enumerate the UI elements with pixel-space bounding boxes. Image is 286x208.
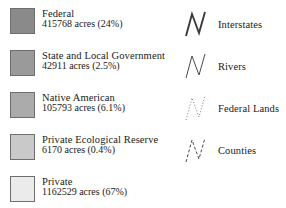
private-ecological-reserve-swatch-icon <box>10 134 35 160</box>
map-legend: Federal 415768 acres (24%) State and Loc… <box>0 0 286 208</box>
legend-item-rivers[interactable]: Rivers <box>183 51 246 81</box>
federal-swatch-icon <box>10 8 35 34</box>
legend-item-label: Interstates <box>218 19 262 30</box>
legend-item-private-ecological-reserve[interactable]: Private Ecological Reserve 6170 acres (0… <box>10 134 158 160</box>
legend-item-stat: 6170 acres (0.4%) <box>42 145 158 156</box>
legend-item-stat: 105793 acres (6.1%) <box>42 103 125 114</box>
legend-item-text: Private Ecological Reserve 6170 acres (0… <box>42 134 158 156</box>
federal-lands-zigzag-dotted-line-icon <box>183 93 213 123</box>
legend-item-counties[interactable]: Counties <box>183 135 256 165</box>
legend-item-label: Federal Lands <box>218 103 279 114</box>
legend-item-label: Rivers <box>218 61 246 72</box>
state-and-local-government-swatch-icon <box>10 50 35 76</box>
legend-item-federal-lands[interactable]: Federal Lands <box>183 93 279 123</box>
legend-item-interstates[interactable]: Interstates <box>183 9 262 39</box>
legend-item-text: Federal 415768 acres (24%) <box>42 8 123 30</box>
rivers-zigzag-line-icon <box>183 51 213 81</box>
legend-item-private[interactable]: Private 1162529 acres (67%) <box>10 176 127 202</box>
legend-item-stat: 1162529 acres (67%) <box>42 187 127 198</box>
counties-zigzag-dashed-line-icon <box>183 135 213 165</box>
legend-item-state-and-local-government[interactable]: State and Local Government 42911 acres (… <box>10 50 165 76</box>
interstates-zigzag-line-icon <box>183 9 213 39</box>
line-legend-column: Interstates Rivers Federal Lands Countie… <box>150 0 286 208</box>
legend-item-text: State and Local Government 42911 acres (… <box>42 50 165 72</box>
polygon-legend-column: Federal 415768 acres (24%) State and Loc… <box>0 0 150 208</box>
legend-item-label: Counties <box>218 145 256 156</box>
legend-item-native-american[interactable]: Native American 105793 acres (6.1%) <box>10 92 125 118</box>
legend-item-text: Private 1162529 acres (67%) <box>42 176 127 198</box>
native-american-swatch-icon <box>10 92 35 118</box>
legend-item-stat: 415768 acres (24%) <box>42 19 123 30</box>
legend-item-text: Native American 105793 acres (6.1%) <box>42 92 125 114</box>
private-swatch-icon <box>10 176 35 202</box>
legend-item-federal[interactable]: Federal 415768 acres (24%) <box>10 8 123 34</box>
legend-item-stat: 42911 acres (2.5%) <box>42 61 165 72</box>
